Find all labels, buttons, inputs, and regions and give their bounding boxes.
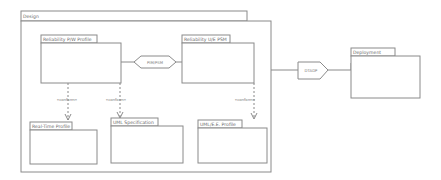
dependency-stereotype: «conform» bbox=[57, 97, 78, 102]
package-label: Real-Time Profile bbox=[32, 124, 70, 129]
package-label: UML Specification bbox=[113, 120, 154, 125]
package-label: Deployment bbox=[353, 50, 381, 55]
package-body bbox=[30, 130, 97, 164]
transformation-label: DTADP bbox=[305, 68, 318, 73]
connector-line bbox=[328, 63, 351, 70]
dependency-stereotype: «conform» bbox=[106, 97, 127, 102]
package-body bbox=[111, 126, 183, 163]
package-label: UML/E.E. Profile bbox=[200, 122, 236, 127]
package-design-tab bbox=[21, 11, 247, 21]
package-body bbox=[198, 128, 267, 163]
package-body bbox=[351, 56, 420, 98]
package-label: Reliability P/W Profile bbox=[43, 37, 92, 42]
package-label: Reliability U/E PSM bbox=[184, 37, 227, 42]
transformation-label: PIM/PSM bbox=[147, 60, 163, 65]
dependency-stereotype: «conform» bbox=[235, 97, 256, 102]
package-deployment[interactable]: Deployment bbox=[351, 48, 420, 98]
package-body bbox=[182, 43, 254, 83]
package-diagram: Design Reliability P/W Profile Reliabili… bbox=[0, 0, 441, 180]
package-body bbox=[41, 43, 121, 83]
package-design-label: Design bbox=[23, 14, 39, 19]
transformation-dtadp[interactable]: DTADP bbox=[271, 62, 351, 79]
